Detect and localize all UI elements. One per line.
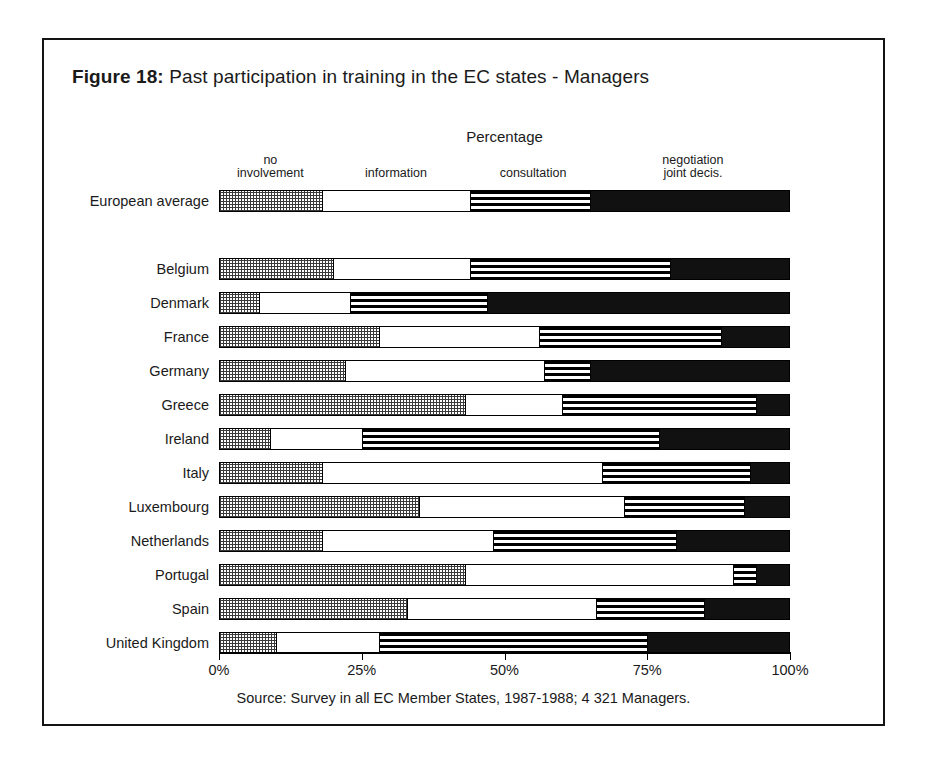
bar-segment-information xyxy=(466,395,563,415)
bar-segment-no_involvement xyxy=(220,293,260,313)
bar-label-france: France xyxy=(44,326,209,348)
chart-plot-area: Percentage no involvementinformationcons… xyxy=(44,40,883,724)
bar-segment-consultation xyxy=(351,293,488,313)
bar-track xyxy=(219,258,790,280)
bar-segment-negotiation xyxy=(488,293,790,313)
bar-segment-no_involvement xyxy=(220,633,277,653)
axis-tick-label: 50% xyxy=(483,662,527,678)
bar-segment-no_involvement xyxy=(220,599,408,619)
bar-segment-negotiation xyxy=(671,259,790,279)
bar-segment-negotiation xyxy=(591,361,790,381)
bar-segment-information xyxy=(323,531,494,551)
bar-track xyxy=(219,394,790,416)
bar-segment-consultation xyxy=(603,463,751,483)
axis-tick xyxy=(219,652,220,660)
axis-title: Percentage xyxy=(219,128,790,145)
bar-label-germany: Germany xyxy=(44,360,209,382)
bar-segment-information xyxy=(380,327,540,347)
bar-segment-no_involvement xyxy=(220,497,420,517)
axis-tick-label: 25% xyxy=(340,662,384,678)
legend-label-information: information xyxy=(326,167,466,180)
bar-segment-information xyxy=(323,191,471,211)
bar-segment-negotiation xyxy=(677,531,790,551)
legend-label-no_involvement: no involvement xyxy=(200,154,340,180)
bar-segment-no_involvement xyxy=(220,531,323,551)
bar-segment-no_involvement xyxy=(220,395,466,415)
bar-segment-negotiation xyxy=(648,633,790,653)
bar-track xyxy=(219,564,790,586)
bar-segment-negotiation xyxy=(722,327,790,347)
bar-segment-information xyxy=(420,497,626,517)
axis-tick xyxy=(790,652,791,660)
bar-segment-information xyxy=(260,293,351,313)
axis-tick-label: 0% xyxy=(197,662,241,678)
bar-segment-information xyxy=(408,599,596,619)
source-note: Source: Survey in all EC Member States, … xyxy=(44,690,883,706)
bar-segment-information xyxy=(346,361,546,381)
bar-segment-negotiation xyxy=(591,191,790,211)
bar-track xyxy=(219,428,790,450)
bar-segment-no_involvement xyxy=(220,361,346,381)
bar-track xyxy=(219,292,790,314)
bar-segment-consultation xyxy=(625,497,745,517)
bar-label-italy: Italy xyxy=(44,462,209,484)
bar-segment-no_involvement xyxy=(220,565,466,585)
bar-label-ireland: Ireland xyxy=(44,428,209,450)
bar-track xyxy=(219,190,790,212)
bar-segment-consultation xyxy=(597,599,705,619)
bar-segment-information xyxy=(271,429,362,449)
bar-segment-consultation xyxy=(734,565,757,585)
bar-segment-consultation xyxy=(540,327,723,347)
bar-segment-negotiation xyxy=(745,497,790,517)
bar-segment-no_involvement xyxy=(220,463,323,483)
bar-segment-information xyxy=(277,633,380,653)
bar-track xyxy=(219,598,790,620)
bar-segment-consultation xyxy=(471,259,671,279)
bar-label-european-average: European average xyxy=(44,190,209,212)
axis-tick-label: 100% xyxy=(768,662,812,678)
bar-label-portugal: Portugal xyxy=(44,564,209,586)
axis-tick xyxy=(647,652,648,660)
bar-label-netherlands: Netherlands xyxy=(44,530,209,552)
bar-segment-no_involvement xyxy=(220,429,271,449)
axis-tick xyxy=(505,652,506,660)
bar-segment-no_involvement xyxy=(220,191,323,211)
bar-segment-negotiation xyxy=(757,395,790,415)
bar-segment-consultation xyxy=(471,191,591,211)
bar-segment-negotiation xyxy=(751,463,790,483)
bar-segment-no_involvement xyxy=(220,327,380,347)
bar-segment-information xyxy=(323,463,603,483)
bar-track xyxy=(219,360,790,382)
x-axis xyxy=(219,652,790,662)
legend-label-consultation: consultation xyxy=(463,167,603,180)
bar-segment-consultation xyxy=(380,633,648,653)
bar-segment-consultation xyxy=(494,531,677,551)
bar-track xyxy=(219,496,790,518)
legend-label-negotiation: negotiation joint decis. xyxy=(623,154,763,180)
bar-segment-consultation xyxy=(545,361,591,381)
bar-segment-information xyxy=(466,565,734,585)
bar-segment-consultation xyxy=(363,429,660,449)
bar-segment-negotiation xyxy=(705,599,790,619)
bar-segment-no_involvement xyxy=(220,259,334,279)
bar-segment-information xyxy=(334,259,471,279)
figure-frame: Figure 18: Past participation in trainin… xyxy=(42,38,885,726)
bar-track xyxy=(219,462,790,484)
axis-tick xyxy=(362,652,363,660)
bar-segment-consultation xyxy=(563,395,757,415)
bar-label-spain: Spain xyxy=(44,598,209,620)
bar-track xyxy=(219,326,790,348)
bar-segment-negotiation xyxy=(757,565,790,585)
bar-label-luxembourg: Luxembourg xyxy=(44,496,209,518)
bar-label-united-kingdom: United Kingdom xyxy=(44,632,209,654)
bar-label-denmark: Denmark xyxy=(44,292,209,314)
bar-label-belgium: Belgium xyxy=(44,258,209,280)
bar-segment-negotiation xyxy=(660,429,790,449)
bar-track xyxy=(219,530,790,552)
bar-label-greece: Greece xyxy=(44,394,209,416)
bar-track xyxy=(219,632,790,654)
axis-tick-label: 75% xyxy=(625,662,669,678)
